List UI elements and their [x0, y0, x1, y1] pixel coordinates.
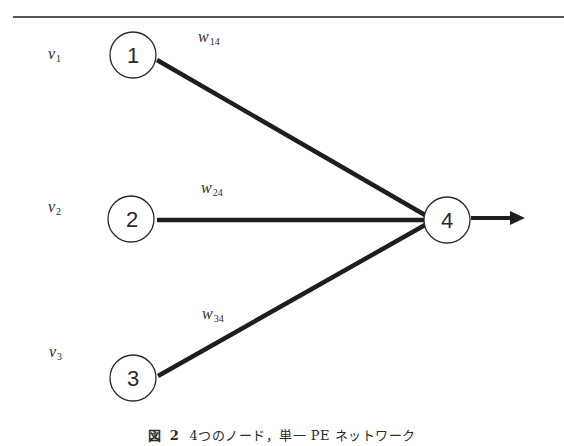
network-diagram: 1 2 3 4	[0, 0, 564, 446]
weight-label-w14: w14	[198, 29, 220, 47]
input-label-v1: v1	[48, 46, 61, 64]
input-label-v2: v2	[48, 199, 61, 217]
caption-prefix: 図	[148, 428, 162, 443]
caption-text: 4つのノード，単一 PE ネットワーク	[189, 428, 415, 443]
edge-3-4	[158, 225, 425, 376]
node-2: 2	[108, 196, 154, 242]
node-1: 1	[110, 32, 156, 78]
svg-text:1: 1	[127, 43, 139, 68]
output-arrow-head-icon	[510, 211, 525, 225]
edge-1-4	[157, 60, 425, 215]
svg-text:3: 3	[127, 366, 139, 391]
input-label-v3: v3	[49, 344, 62, 362]
figure-caption: 図24つのノード，単一 PE ネットワーク	[0, 425, 564, 444]
caption-number: 2	[170, 428, 180, 443]
node-4: 4	[424, 197, 470, 243]
node-3: 3	[110, 355, 156, 401]
svg-text:2: 2	[126, 207, 138, 232]
svg-text:4: 4	[441, 208, 453, 233]
weight-label-w24: w24	[201, 180, 223, 198]
weight-label-w34: w34	[202, 306, 224, 324]
